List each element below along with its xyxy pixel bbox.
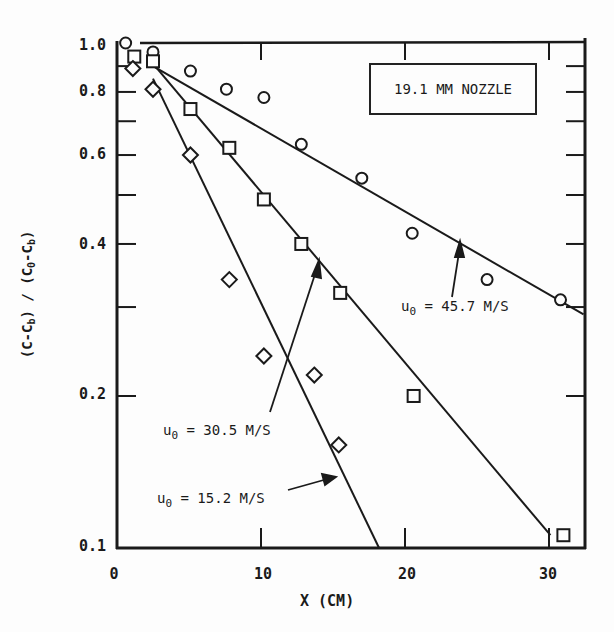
- annotation-arrows: [270, 241, 464, 490]
- axis-ticks: [117, 43, 585, 548]
- x-axis-label: X (CM): [300, 592, 354, 610]
- data-point-square: [223, 142, 235, 154]
- data-point-diamond: [183, 148, 198, 163]
- data-point-diamond: [331, 437, 346, 452]
- fit-line: [153, 79, 379, 548]
- data-point-circle: [356, 173, 367, 184]
- data-point-circle: [185, 66, 196, 77]
- data-point-circle: [221, 84, 232, 95]
- data-point-diamond: [222, 272, 237, 287]
- data-point-square: [295, 238, 307, 250]
- data-point-square: [128, 51, 140, 63]
- data-point-square: [334, 287, 346, 299]
- ytick-0.8: 0.8: [56, 82, 106, 100]
- ytick-0.6: 0.6: [56, 145, 106, 163]
- annotation-15.2: u0 = 15.2 M/S: [157, 490, 265, 510]
- chart-title-box: 19.1 MM NOZZLE: [369, 63, 537, 115]
- data-point-diamond: [307, 368, 322, 383]
- data-point-diamond: [256, 348, 271, 363]
- data-point-diamond: [146, 82, 161, 97]
- fit-lines: [153, 64, 584, 548]
- ytick-0.4: 0.4: [56, 235, 106, 253]
- ytick-0.2: 0.2: [56, 385, 106, 403]
- ytick-0.1: 0.1: [56, 537, 106, 555]
- data-point-circle: [407, 228, 418, 239]
- data-point-square: [408, 390, 420, 402]
- xtick-0: 0: [94, 565, 134, 583]
- data-point-square: [557, 529, 569, 541]
- data-point-circle: [296, 139, 307, 150]
- y-axis-label: (C-Cb) / (C0-Cb): [19, 204, 38, 384]
- xtick-10: 10: [243, 565, 283, 583]
- xtick-30: 30: [528, 565, 568, 583]
- ytick-1.0: 1.0: [56, 36, 106, 54]
- data-point-square: [184, 103, 196, 115]
- data-point-circle: [482, 274, 493, 285]
- xtick-20: 20: [387, 565, 427, 583]
- data-point-square: [147, 55, 159, 67]
- data-point-circle: [120, 38, 131, 49]
- data-point-circle: [258, 92, 269, 103]
- data-point-square: [258, 193, 270, 205]
- data-point-circle: [555, 294, 566, 305]
- annotation-30.5: u0 = 30.5 M/S: [163, 422, 271, 442]
- annotation-45.7: u0 = 45.7 M/S: [401, 298, 509, 318]
